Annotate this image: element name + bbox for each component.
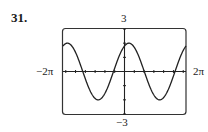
graph [0,0,208,132]
axes [63,29,186,114]
